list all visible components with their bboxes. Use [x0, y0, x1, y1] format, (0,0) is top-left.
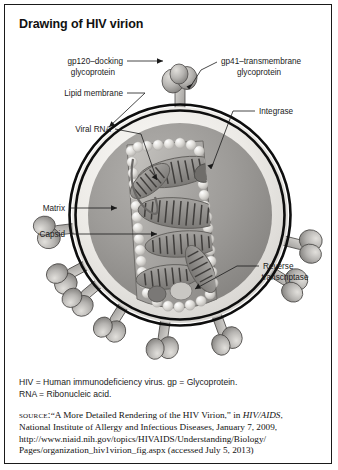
source-text-part1: “A More Detailed Rendering of the HIV Vi… [51, 410, 243, 420]
label-gp120-line1: gp120–docking [67, 57, 123, 66]
page-title: Drawing of HIV virion [19, 17, 143, 31]
virion-svg: gp120–docking glycoprotein gp41–transmem… [5, 41, 330, 371]
abbreviation-line-1: HIV = Human immunodeficiency virus. gp =… [19, 377, 319, 389]
label-gp41-line1: gp41–transmembrane [221, 57, 302, 66]
label-gp120-line2: glycoprotein [71, 68, 116, 77]
source-line-4: Pages/organization_hiv1virion_fig.aspx (… [19, 445, 319, 457]
source-citation: source:“A More Detailed Rendering of the… [19, 409, 319, 457]
source-line-3: http://www.niaid.nih.gov/topics/HIVAIDS/… [19, 434, 319, 446]
label-lipid-membrane: Lipid membrane [64, 89, 123, 98]
source-publication-title: HIV/AIDS [243, 410, 281, 420]
label-integrase: Integrase [259, 107, 294, 116]
source-label: source: [19, 409, 51, 420]
label-gp41-line2: glycoprotein [237, 68, 282, 77]
source-line-1: source:“A More Detailed Rendering of the… [19, 409, 319, 422]
source-line-2: National Institute of Allergy and Infect… [19, 422, 319, 434]
label-matrix: Matrix [43, 204, 65, 213]
label-viral-rna: Viral RNA [75, 125, 111, 134]
source-text-part2: , [280, 410, 282, 420]
hiv-virion-diagram: gp120–docking glycoprotein gp41–transmem… [5, 41, 330, 371]
label-reverse-transcriptase-line1: Reverse [263, 262, 294, 271]
virion-body [70, 105, 291, 326]
figure-container: Drawing of HIV virion [4, 4, 332, 464]
label-reverse-transcriptase-line2: transcriptase [262, 273, 309, 282]
reverse-transcriptase-enzyme-b [170, 282, 192, 300]
abbreviation-line-2: RNA = Ribonucleic acid. [19, 389, 319, 401]
reverse-transcriptase-enzyme-a [148, 286, 166, 302]
label-capsid: Capsid [40, 230, 66, 239]
figure-footer: HIV = Human immunodeficiency virus. gp =… [19, 377, 319, 457]
arrowhead-gp120 [157, 58, 163, 64]
